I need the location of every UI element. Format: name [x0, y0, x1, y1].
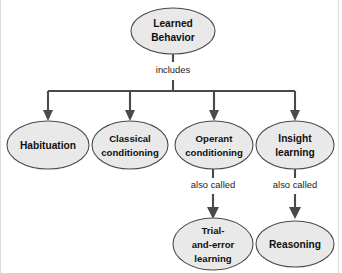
arrowhead-reasoning: [289, 207, 301, 219]
node-operant-conditioning-label-line1: Operant: [196, 133, 234, 144]
arrowhead-trial-and-error-learning: [207, 207, 219, 219]
node-classical-conditioning-label-line1: Classical: [109, 133, 151, 144]
node-insight-learning[interactable]: Insight learning: [256, 121, 334, 169]
node-trial-and-error-learning[interactable]: Trial- and-error learning: [173, 218, 253, 270]
node-insight-learning-label-line1: Insight: [278, 133, 312, 144]
node-insight-learning-shape: [256, 121, 334, 169]
edge-label-also-called-right: also called: [273, 179, 317, 190]
arrowhead-classical-conditioning: [125, 110, 135, 121]
node-reasoning[interactable]: Reasoning: [256, 221, 334, 267]
node-learned-behavior[interactable]: Learned Behavior: [131, 8, 215, 54]
node-operant-conditioning-shape: [175, 121, 253, 169]
node-learned-behavior-label-line2: Behavior: [151, 32, 195, 43]
node-trial-and-error-learning-label-line1: Trial-: [202, 225, 225, 236]
node-operant-conditioning-label-line2: conditioning: [185, 147, 243, 158]
arrowhead-habituation: [43, 110, 53, 121]
diagram-canvas: Learned Behavior includes Habituation C: [0, 0, 342, 273]
node-classical-conditioning-label-line2: conditioning: [101, 147, 159, 158]
node-operant-conditioning[interactable]: Operant conditioning: [175, 121, 253, 169]
node-habituation-label-line1: Habituation: [20, 140, 76, 151]
concept-map-svg: Learned Behavior includes Habituation C: [0, 0, 342, 273]
node-insight-learning-label-line2: learning: [275, 147, 315, 158]
node-learned-behavior-label-line1: Learned: [153, 18, 193, 29]
arrowhead-operant-conditioning: [209, 110, 219, 121]
arrowhead-insight-learning: [290, 110, 300, 121]
edge-label-includes: includes: [156, 64, 191, 75]
node-classical-conditioning-shape: [92, 121, 168, 169]
node-trial-and-error-learning-label-line3: learning: [194, 253, 231, 264]
edge-label-also-called-left: also called: [191, 179, 235, 190]
node-classical-conditioning[interactable]: Classical conditioning: [92, 121, 168, 169]
node-reasoning-label-line1: Reasoning: [269, 239, 321, 250]
node-trial-and-error-learning-label-line2: and-error: [192, 239, 235, 250]
node-habituation[interactable]: Habituation: [7, 121, 89, 169]
